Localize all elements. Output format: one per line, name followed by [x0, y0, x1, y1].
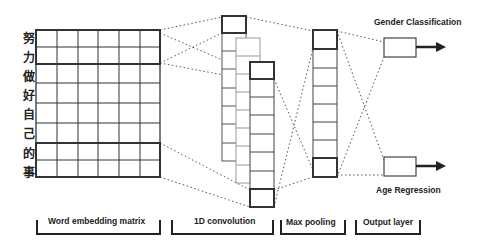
age-output: Age Regression — [376, 157, 446, 195]
word-embedding-matrix — [36, 30, 160, 177]
stage-label-conv: 1D convolution — [194, 216, 255, 226]
token-4: 自 — [23, 107, 35, 122]
stage-label-pooling: Max pooling — [286, 217, 336, 227]
token-0: 努 — [23, 31, 35, 46]
token-5: 己 — [23, 127, 35, 141]
age-label: Age Regression — [376, 185, 441, 195]
arrow-right-icon — [436, 161, 446, 171]
conv-feature-map-3 — [250, 62, 274, 207]
gender-label: Gender Classification — [374, 17, 461, 27]
cnn-diagram: 努 力 做 好 自 己 的 事 — [0, 0, 478, 251]
conv-highlight-top — [222, 16, 246, 33]
arrow-right-icon — [436, 42, 446, 52]
token-labels: 努 力 做 好 自 己 的 事 — [22, 31, 36, 180]
stage-label-embedding: Word embedding matrix — [48, 216, 145, 226]
token-1: 力 — [23, 50, 35, 65]
gender-output: Gender Classification — [374, 17, 461, 57]
token-6: 的 — [23, 146, 35, 161]
stage-label-output: Output layer — [363, 217, 414, 227]
token-7: 事 — [23, 165, 35, 180]
max-pooling-vector — [313, 30, 337, 177]
token-3: 好 — [22, 88, 35, 103]
token-2: 做 — [22, 69, 36, 84]
